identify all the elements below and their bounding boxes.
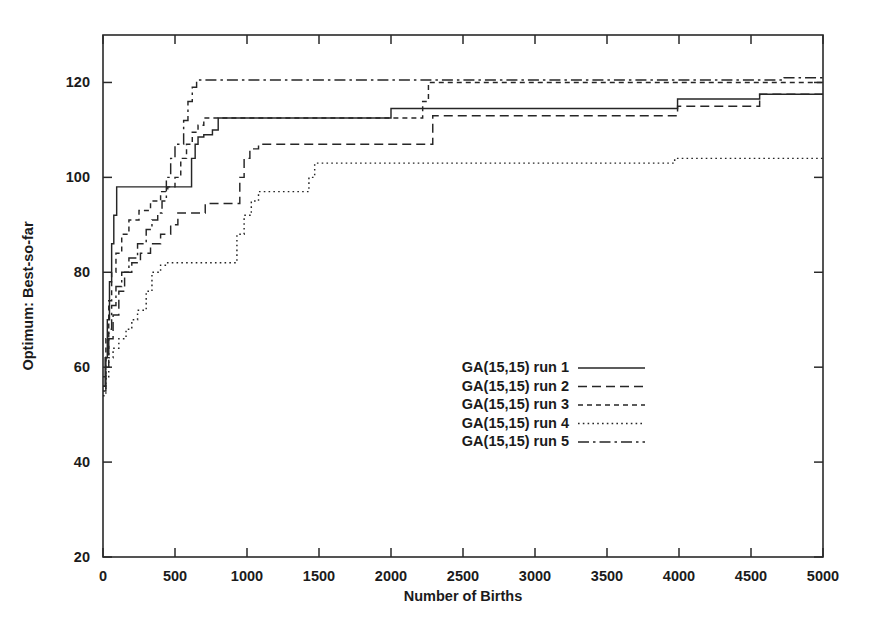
series-line-run-2 [103,94,823,391]
y-axis-title: Optimum: Best-so-far [20,221,36,370]
series-line-run-5 [103,78,823,386]
x-tick-label: 500 [163,568,187,584]
x-tick-label: 1000 [231,568,263,584]
legend-label-run-2: GA(15,15) run 2 [462,378,569,394]
x-tick-label: 3500 [591,568,623,584]
x-tick-label: 2500 [447,568,479,584]
legend-label-run-5: GA(15,15) run 5 [462,433,569,449]
x-axis-ticks: 0500100015002000250030003500400045005000 [99,35,839,584]
x-tick-label: 5000 [807,568,839,584]
y-tick-label: 60 [74,359,90,375]
x-tick-label: 4000 [663,568,695,584]
y-tick-label: 80 [74,264,90,280]
legend: GA(15,15) run 1GA(15,15) run 2GA(15,15) … [462,359,645,449]
plot-frame [103,35,823,557]
y-tick-label: 120 [66,74,90,90]
legend-label-run-4: GA(15,15) run 4 [462,415,569,431]
y-tick-label: 40 [74,454,90,470]
x-axis-title: Number of Births [404,588,522,604]
chart-figure: 0500100015002000250030003500400045005000… [0,0,874,638]
y-axis-ticks: 20406080100120 [66,74,823,565]
series-line-run-1 [103,94,823,386]
y-tick-label: 20 [74,549,90,565]
series-lines [103,78,823,396]
y-tick-label: 100 [66,169,90,185]
plot-area: 0500100015002000250030003500400045005000… [0,0,874,638]
axes-frame [103,35,823,557]
legend-label-run-1: GA(15,15) run 1 [462,359,569,375]
x-tick-label: 1500 [303,568,335,584]
x-tick-label: 4500 [735,568,767,584]
legend-label-run-3: GA(15,15) run 3 [462,396,569,412]
x-tick-label: 0 [99,568,107,584]
x-tick-label: 2000 [375,568,407,584]
series-line-run-3 [103,82,823,376]
x-tick-label: 3000 [519,568,551,584]
